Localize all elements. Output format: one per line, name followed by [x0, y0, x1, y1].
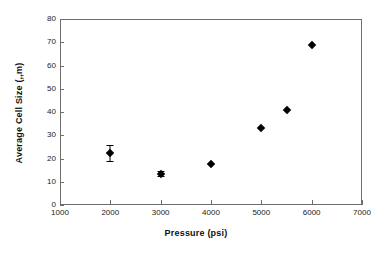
x-tick-6000	[312, 200, 313, 205]
y-tick-80	[60, 19, 64, 20]
y-tick-60	[60, 66, 64, 67]
y-tick-label-30: 30	[34, 131, 56, 139]
x-tick-7000	[362, 200, 363, 205]
x-axis-title: Pressure (psi)	[0, 228, 392, 238]
x-tick-label-7000: 7000	[342, 209, 382, 217]
y-tick-30	[60, 135, 64, 136]
y-tick-label-40: 40	[34, 108, 56, 116]
x-tick-label-1000: 1000	[40, 209, 80, 217]
y-tick-label-50: 50	[34, 85, 56, 93]
x-tick-4000	[211, 200, 212, 205]
x-tick-label-2000: 2000	[90, 209, 130, 217]
error-bar-cap-lower	[107, 161, 114, 162]
y-tick-label-70: 70	[34, 38, 56, 46]
y-tick-0	[60, 205, 64, 206]
y-tick-70	[60, 42, 64, 43]
y-tick-50	[60, 89, 64, 90]
x-tick-3000	[161, 200, 162, 205]
scatter-chart: 01020304050607080 1000200030004000500060…	[0, 0, 392, 253]
x-tick-label-5000: 5000	[241, 209, 281, 217]
y-tick-20	[60, 159, 64, 160]
x-tick-2000	[110, 200, 111, 205]
y-tick-label-80: 80	[34, 15, 56, 23]
error-bar-cap-upper	[107, 145, 114, 146]
y-tick-label-60: 60	[34, 62, 56, 70]
x-tick-5000	[261, 200, 262, 205]
y-axis-title: Average Cell Size (,,m)	[14, 38, 24, 188]
y-tick-10	[60, 182, 64, 183]
x-tick-label-3000: 3000	[141, 209, 181, 217]
x-tick-1000	[60, 200, 61, 205]
y-tick-label-20: 20	[34, 155, 56, 163]
y-tick-40	[60, 112, 64, 113]
y-tick-label-10: 10	[34, 178, 56, 186]
x-tick-label-4000: 4000	[191, 209, 231, 217]
x-tick-label-6000: 6000	[292, 209, 332, 217]
plot-area	[60, 19, 362, 205]
